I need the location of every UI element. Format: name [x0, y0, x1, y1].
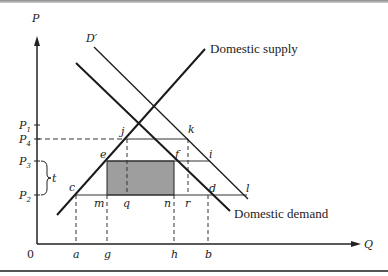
point-c: c	[69, 181, 75, 194]
p3-label: P3	[18, 155, 31, 170]
point-l: l	[246, 182, 250, 195]
point-e: e	[100, 148, 107, 161]
q-tick-a: a	[73, 248, 80, 261]
p2-label: P2	[18, 189, 31, 204]
p1-label: P1	[18, 119, 31, 134]
tariff-diagram: P Q 0 P1 P4 P3 P2 t a g h b j k e f i c …	[0, 0, 388, 276]
q-tick-g: g	[104, 248, 111, 261]
point-d: d	[209, 182, 216, 195]
point-f: f	[174, 148, 181, 161]
demand-label: Domestic demand	[234, 206, 329, 221]
x-axis-label: Q	[364, 238, 373, 251]
shifted-demand-label: D′	[85, 32, 98, 45]
point-n: n	[164, 197, 171, 210]
p4-label: P4	[18, 133, 31, 148]
y-axis-arrow-icon	[34, 36, 40, 46]
point-q: q	[123, 197, 130, 210]
point-r: r	[185, 197, 191, 210]
point-j: j	[118, 125, 125, 138]
point-k: k	[188, 123, 195, 136]
point-i: i	[209, 148, 213, 161]
point-m: m	[94, 197, 104, 210]
tariff-brace-icon	[41, 161, 51, 195]
q-tick-h: h	[171, 248, 178, 261]
y-axis-label: P	[31, 12, 40, 25]
origin-label: 0	[27, 248, 34, 261]
tariff-label: t	[52, 172, 57, 185]
x-axis-arrow-icon	[351, 241, 361, 247]
supply-label: Domestic supply	[210, 41, 298, 56]
tariff-revenue-area	[107, 161, 174, 195]
q-tick-b: b	[205, 248, 212, 261]
